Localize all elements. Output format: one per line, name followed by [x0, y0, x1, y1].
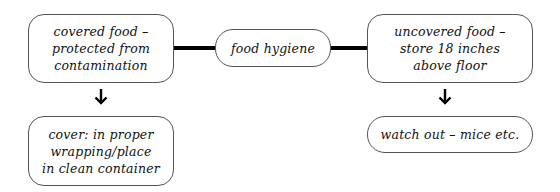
arrow-down-icon: [438, 89, 452, 105]
node-cover-wrapping: cover: in proper wrapping/place in clean…: [28, 116, 174, 186]
node-cover-wrapping-label: cover: in proper wrapping/place in clean…: [42, 126, 160, 177]
connector-left: [173, 46, 216, 50]
node-watch-out-mice: watch out – mice etc.: [367, 116, 533, 153]
node-watch-out-mice-label: watch out – mice etc.: [381, 126, 520, 143]
node-covered-food: covered food – protected from contaminat…: [28, 14, 174, 83]
node-uncovered-food-label: uncovered food – store 18 inches above f…: [394, 23, 506, 74]
arrow-down-icon: [94, 89, 108, 105]
node-food-hygiene-label: food hygiene: [231, 40, 315, 57]
connector-right: [329, 46, 368, 50]
node-food-hygiene: food hygiene: [215, 29, 331, 67]
node-uncovered-food: uncovered food – store 18 inches above f…: [367, 14, 533, 83]
node-covered-food-label: covered food – protected from contaminat…: [52, 23, 150, 74]
